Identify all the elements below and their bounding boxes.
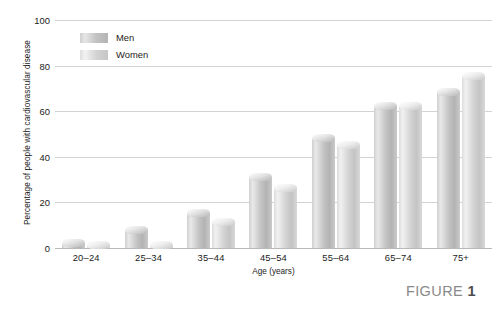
y-tick-label-20: 20 — [10, 197, 50, 208]
y-axis-title: Percentage of people with cardiovascular… — [23, 14, 32, 252]
x-axis-title: Age (years) — [55, 267, 492, 276]
bar-group — [367, 20, 429, 248]
bar-top-cap — [187, 209, 210, 217]
y-tick-label-0: 0 — [10, 243, 50, 254]
bar-men-45-54[interactable] — [249, 173, 272, 248]
x-tick-label: 20–24 — [55, 252, 117, 263]
bar-top-cap — [374, 102, 397, 110]
bar-men-25-34[interactable] — [125, 226, 148, 248]
bar-body — [249, 177, 272, 248]
bar-top-cap — [212, 218, 235, 226]
bar-men-20-24[interactable] — [62, 239, 85, 248]
bar-top-cap — [125, 226, 148, 234]
bar-women-65-74[interactable] — [399, 102, 422, 248]
bar-top-cap — [462, 72, 485, 80]
x-tick-label: 45–54 — [242, 252, 304, 263]
bar-men-75-[interactable] — [437, 88, 460, 248]
bar-group — [180, 20, 242, 248]
x-tick-label: 75+ — [430, 252, 492, 263]
bar-top-cap — [274, 184, 297, 192]
bar-women-75-[interactable] — [462, 72, 485, 248]
legend: Men Women — [80, 31, 148, 65]
bar-group — [242, 20, 304, 248]
x-tick-label: 25–34 — [117, 252, 179, 263]
figure-caption-number: 1 — [468, 283, 476, 299]
bar-women-45-54[interactable] — [274, 184, 297, 248]
bar-group — [430, 20, 492, 248]
bar-body — [312, 138, 335, 248]
y-tick-label-80: 80 — [10, 60, 50, 71]
y-tick-label-40: 40 — [10, 151, 50, 162]
bar-women-25-34[interactable] — [150, 241, 173, 248]
bar-body — [437, 92, 460, 248]
bar-top-cap — [150, 241, 173, 249]
bar-body — [399, 106, 422, 248]
bar-body — [374, 106, 397, 248]
figure-caption: FIGURE 1 — [0, 283, 476, 299]
bar-women-35-44[interactable] — [212, 218, 235, 248]
bar-body — [462, 76, 485, 248]
legend-swatch-women-icon — [80, 50, 108, 60]
bar-men-35-44[interactable] — [187, 209, 210, 248]
legend-swatch-men-icon — [80, 33, 108, 43]
bar-women-20-24[interactable] — [87, 241, 110, 248]
bar-top-cap — [437, 88, 460, 96]
bar-top-cap — [62, 239, 85, 247]
x-tick-label: 65–74 — [367, 252, 429, 263]
figure-container: Percentage of people with cardiovascular… — [0, 0, 496, 312]
y-tick-label-60: 60 — [10, 106, 50, 117]
bar-group — [305, 20, 367, 248]
x-axis-tick-labels: 20–2425–3435–4445–5455–6465–7475+ — [55, 252, 492, 263]
x-tick-label: 55–64 — [305, 252, 367, 263]
bar-top-cap — [249, 173, 272, 181]
bar-body — [337, 145, 360, 248]
bar-men-65-74[interactable] — [374, 102, 397, 248]
bar-body — [212, 222, 235, 248]
bar-body — [187, 213, 210, 248]
bar-men-55-64[interactable] — [312, 134, 335, 248]
legend-item-women: Women — [80, 48, 148, 61]
legend-label-men: Men — [116, 32, 134, 43]
bar-top-cap — [399, 102, 422, 110]
y-tick-label-100: 100 — [10, 15, 50, 26]
x-tick-label: 35–44 — [180, 252, 242, 263]
bar-top-cap — [337, 141, 360, 149]
legend-label-women: Women — [116, 49, 148, 60]
bar-top-cap — [87, 241, 110, 249]
bar-body — [274, 188, 297, 248]
bar-top-cap — [312, 134, 335, 142]
figure-caption-prefix: FIGURE — [406, 283, 463, 299]
bar-women-55-64[interactable] — [337, 141, 360, 248]
legend-item-men: Men — [80, 31, 148, 44]
